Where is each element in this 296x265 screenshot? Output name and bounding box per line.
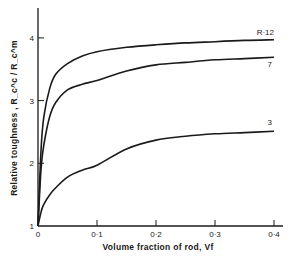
y-tick-label: 2: [30, 159, 35, 168]
chart: 00·10·20·30·4 1234 R·1273 Volume fractio…: [0, 0, 296, 265]
curve-label: 3: [268, 118, 273, 127]
x-axis-title: Volume fraction of rod, Vf: [102, 242, 213, 252]
curve-r7: [38, 57, 274, 226]
x-tick-label: 0·1: [91, 230, 103, 239]
y-tick-label: 1: [30, 222, 35, 231]
plot-area: 00·10·20·30·4 1234 R·1273: [30, 8, 283, 239]
y-axis-title: Relative toughness , R_c^c / R_c^m: [9, 40, 19, 196]
y-tick-label: 3: [30, 97, 35, 106]
x-tick-label: 0: [36, 230, 41, 239]
y-tick-label: 4: [30, 34, 35, 43]
x-tick-label: 0·3: [209, 230, 221, 239]
curves: [38, 40, 274, 226]
x-ticks: 00·10·20·30·4: [36, 220, 281, 239]
curve-r3: [38, 131, 274, 226]
curve-label: R·12: [257, 28, 275, 37]
x-tick-label: 0·4: [268, 230, 280, 239]
curve-labels: R·1273: [257, 28, 275, 128]
x-tick-label: 0·2: [150, 230, 162, 239]
curve-label: 7: [268, 60, 273, 69]
